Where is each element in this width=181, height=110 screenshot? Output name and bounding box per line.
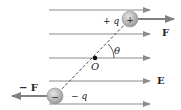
force-label-positive: F [162,27,169,38]
negative-sign: − [51,92,59,102]
positive-charge: + [122,11,138,27]
force-label-negative: − F [19,82,38,93]
angle-label: θ [114,45,120,56]
field-label: E [157,75,165,86]
origin-point [93,56,98,61]
negative-charge: − [47,88,63,104]
dipole-diagram: θ O + + q F − − q − F E [0,0,181,110]
origin-label: O [91,61,99,72]
positive-sign: + [126,15,134,25]
positive-charge-label: + q [103,16,119,26]
negative-charge-label: − q [71,91,87,101]
